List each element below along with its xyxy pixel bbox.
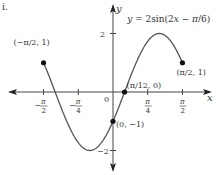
axes [8,4,212,172]
data-point [110,119,115,124]
y-tick-label: 2 [100,30,105,39]
data-point-label: (π/12, 0) [127,81,162,90]
chart-title: y = 2sin(2x − π/6) [126,14,210,24]
y-axis-label: y [115,3,122,14]
x-tick-label-num: π [144,98,150,106]
data-point-label: (0, −1) [116,120,144,129]
y-tick-label: −2 [97,147,109,156]
data-point [180,60,185,65]
data-point [41,60,46,65]
x-axis-label: x [207,92,213,103]
x-tick-label-den: 2 [42,107,46,115]
chart: i. yx0−π2−π4π4π22−2y = 2sin(2x − π/6)(−π… [0,0,219,175]
x-tick-label-num: π [75,98,81,106]
x-tick-label-den: 4 [76,107,81,115]
x-tick-label-num: π [40,98,46,106]
problem-label: i. [2,2,8,12]
x-tick-label-den: 2 [180,107,184,115]
origin-label: 0 [104,95,109,104]
data-point [122,89,127,94]
x-tick-label-den: 4 [146,107,151,115]
x-tick-label-num: π [179,98,185,106]
data-point-label: (−π/2, 1) [14,38,50,47]
data-point-label: (π/2, 1) [176,68,205,77]
